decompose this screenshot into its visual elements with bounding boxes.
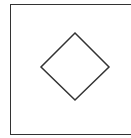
- diamond-shape: [0, 0, 131, 138]
